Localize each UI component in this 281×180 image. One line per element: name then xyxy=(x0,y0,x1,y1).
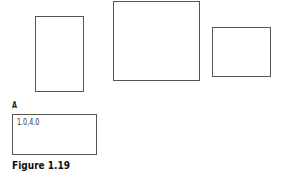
rectangle-a-label: A xyxy=(12,101,17,110)
rectangle-small xyxy=(212,27,271,77)
figure-caption: Figure 1.19 xyxy=(12,159,70,172)
rectangle-tall xyxy=(35,16,84,92)
rectangle-square xyxy=(113,1,200,81)
rectangle-a-coordinates: 1.0,4.0 xyxy=(17,118,39,127)
rectangle-a: 1.0,4.0 xyxy=(12,114,97,155)
